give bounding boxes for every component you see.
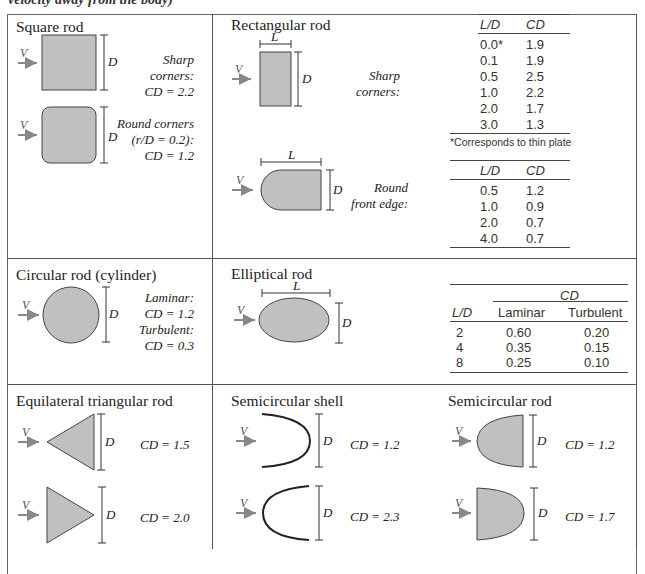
semicircular-rod-cd-2: CD = 1.7 [565,509,625,525]
svg-text:V: V [22,298,31,312]
semicircular-shell-cd-2: CD = 2.3 [350,509,410,525]
triangular-rod-flat-forward-icon: V D [18,487,116,543]
corners-label: corners: [340,84,400,100]
cd-value: CD = 0.3 [118,338,194,354]
svg-text:V: V [22,498,31,512]
table-rule [450,179,570,180]
table-cell: 2 [456,325,463,340]
cd-value: CD = 1.2 [110,148,194,164]
svg-text:L: L [287,147,295,162]
svg-text:D: D [301,71,312,86]
table-cell: 2.5 [526,69,544,84]
table-rule [478,33,570,34]
svg-text:V: V [240,496,249,510]
header-l-over-d: L/D [480,163,500,178]
square-rod-sharp-icon: V D [18,35,118,90]
table-cell: 0.15 [584,340,609,355]
svg-text:D: D [322,505,333,520]
semicircular-rod-cd-1: CD = 1.2 [565,437,625,453]
svg-text:V: V [22,425,31,439]
table-cell: 4.0 [480,231,498,246]
square-rod-sharp-label: Sharp corners: CD = 2.2 [120,52,194,100]
table-rule [450,247,570,248]
table-rule [450,284,628,285]
table-cell: 0.7 [526,215,544,230]
table-rule [478,14,570,15]
table-cell: 4 [456,340,463,355]
table-cell: 0.5 [480,69,498,84]
round-corners-label: Round corners [110,116,194,132]
elliptical-rod-icon: L V D [234,278,352,343]
table-cell: 0.60 [506,325,531,340]
header-cd: CD [526,163,545,178]
table-cell: 0.9 [526,199,544,214]
cd-value: CD = 1.2 [118,306,194,322]
table-rule [450,133,570,134]
svg-text:D: D [322,433,333,448]
laminar-label: Laminar: [118,290,194,306]
cd-value: CD = 2.2 [120,84,194,100]
table-rule [493,301,628,302]
svg-text:D: D [536,433,547,448]
table-cell: 0.1 [480,53,498,68]
table-cell: 1.2 [526,183,544,198]
header-l-over-d: L/D [452,305,472,320]
rectangular-rod-round-label: Round front edge: [330,180,408,212]
table-rule [450,160,570,161]
svg-text:D: D [107,54,118,69]
table-cell: 1.9 [526,53,544,68]
round-ratio-label: (r/D = 0.2): [110,132,194,148]
table-rule [450,372,628,373]
triangular-rod-cd-2: CD = 2.0 [140,510,200,526]
table-cell: 0.35 [506,340,531,355]
table-cell: 1.7 [526,101,544,116]
table-cell: 1.0 [480,85,498,100]
triangular-rod-apex-forward-icon: V D [18,414,115,470]
semicircular-rod-round-forward-icon: V D [452,415,547,467]
svg-text:V: V [455,424,464,438]
thin-plate-footnote: *Corresponds to thin plate [450,136,571,148]
table-cell: 0.10 [584,355,609,370]
rectangular-rod-round-front-icon: L V D [232,147,343,210]
table-cell: 1.9 [526,37,544,52]
table-cell: 2.0 [480,215,498,230]
table-rule [450,321,628,322]
svg-text:L: L [292,278,300,293]
svg-text:V: V [235,62,244,76]
svg-text:L: L [270,29,278,44]
square-rod-round-label: Round corners (r/D = 0.2): CD = 1.2 [110,116,194,164]
header-l-over-d: L/D [480,17,500,32]
svg-text:D: D [537,505,548,520]
svg-text:D: D [105,507,116,522]
svg-text:D: D [104,434,115,449]
square-rod-round-icon: V D [18,107,118,163]
table-cell: 1.0 [480,199,498,214]
header-laminar: Laminar [498,305,545,320]
svg-text:V: V [240,424,249,438]
svg-text:D: D [341,315,352,330]
turbulent-label: Turbulent: [118,322,194,338]
front-edge-label: front edge: [330,196,408,212]
table-cell: 3.0 [480,117,498,132]
semicircular-rod-flat-forward-icon: V D [452,488,548,540]
table-cell: 0.5 [480,183,498,198]
rectangular-rod-sharp-icon: L V D [232,29,312,106]
table-cell: 2.0 [480,101,498,116]
semicircular-shell-cd-1: CD = 1.2 [350,437,410,453]
circular-rod-icon: V D [18,287,119,343]
svg-text:V: V [237,303,246,317]
table-cell: 0.7 [526,231,544,246]
rectangular-rod-sharp-label: Sharp corners: [340,68,400,100]
circular-rod-labels: Laminar: CD = 1.2 Turbulent: CD = 0.3 [118,290,194,354]
table-cell: 8 [456,355,463,370]
table-cell: 0.0* [480,37,503,52]
header-cd: CD [526,17,545,32]
sharp-label: Sharp [340,68,400,84]
round-label: Round [330,180,408,196]
table-cell: 0.25 [506,355,531,370]
table-cell: 2.2 [526,85,544,100]
table-cell: 1.3 [526,117,544,132]
sharp-corners-label: Sharp corners: [120,52,194,84]
svg-text:V: V [20,118,29,132]
